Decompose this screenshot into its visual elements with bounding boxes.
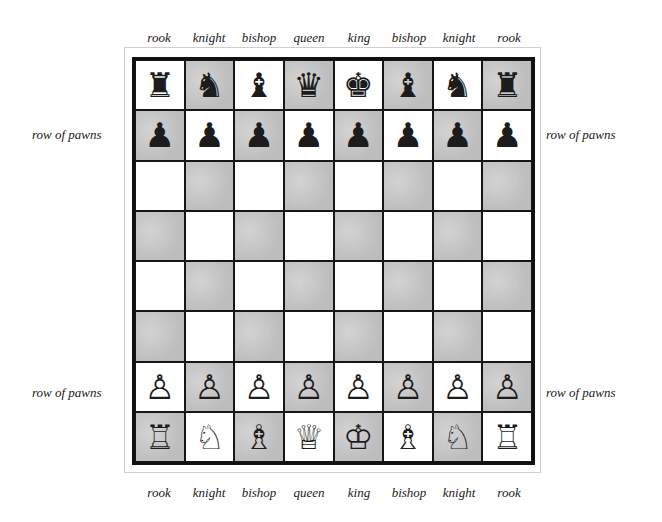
square-r3-c4 bbox=[334, 211, 384, 261]
label-white-pawn-row-right: row of pawns bbox=[546, 385, 616, 401]
bottom-label-3: queen bbox=[284, 485, 334, 501]
top-label-5: bishop bbox=[384, 30, 434, 46]
white-rook-icon: ♖ bbox=[145, 420, 175, 454]
label-black-pawn-row-right: row of pawns bbox=[546, 127, 616, 143]
square-r2-c3 bbox=[284, 161, 334, 211]
square-r5-c5 bbox=[383, 311, 433, 361]
label-white-pawn-row-left: row of pawns bbox=[32, 385, 102, 401]
square-r0-c5: ♝ bbox=[383, 60, 433, 110]
square-r0-c0: ♜ bbox=[135, 60, 185, 110]
square-r3-c2 bbox=[234, 211, 284, 261]
square-r1-c1: ♟ bbox=[185, 110, 235, 160]
black-queen-icon: ♛ bbox=[293, 68, 323, 102]
square-r4-c0 bbox=[135, 261, 185, 311]
square-r7-c1: ♘ bbox=[185, 412, 235, 462]
square-r0-c6: ♞ bbox=[433, 60, 483, 110]
square-r2-c4 bbox=[334, 161, 384, 211]
square-r0-c3: ♛ bbox=[284, 60, 334, 110]
square-r6-c7: ♙ bbox=[482, 362, 532, 412]
white-pawn-icon: ♙ bbox=[145, 370, 175, 404]
square-r1-c4: ♟ bbox=[334, 110, 384, 160]
square-r5-c3 bbox=[284, 311, 334, 361]
white-pawn-icon: ♙ bbox=[194, 370, 224, 404]
white-pawn-icon: ♙ bbox=[244, 370, 274, 404]
square-r2-c7 bbox=[482, 161, 532, 211]
black-pawn-icon: ♟ bbox=[145, 118, 175, 152]
square-r3-c3 bbox=[284, 211, 334, 261]
square-r6-c4: ♙ bbox=[334, 362, 384, 412]
black-knight-icon: ♞ bbox=[194, 68, 224, 102]
square-r6-c3: ♙ bbox=[284, 362, 334, 412]
square-r2-c1 bbox=[185, 161, 235, 211]
square-r4-c4 bbox=[334, 261, 384, 311]
square-r7-c2: ♗ bbox=[234, 412, 284, 462]
bottom-label-4: king bbox=[334, 485, 384, 501]
bottom-label-1: knight bbox=[184, 485, 234, 501]
square-r6-c5: ♙ bbox=[383, 362, 433, 412]
square-r1-c5: ♟ bbox=[383, 110, 433, 160]
square-r1-c3: ♟ bbox=[284, 110, 334, 160]
square-r6-c0: ♙ bbox=[135, 362, 185, 412]
square-r3-c6 bbox=[433, 211, 483, 261]
square-r3-c0 bbox=[135, 211, 185, 261]
square-r6-c1: ♙ bbox=[185, 362, 235, 412]
square-r6-c6: ♙ bbox=[433, 362, 483, 412]
square-r0-c4: ♚ bbox=[334, 60, 384, 110]
square-r1-c2: ♟ bbox=[234, 110, 284, 160]
white-pawn-icon: ♙ bbox=[442, 370, 472, 404]
square-r1-c6: ♟ bbox=[433, 110, 483, 160]
square-r4-c3 bbox=[284, 261, 334, 311]
black-pawn-icon: ♟ bbox=[442, 118, 472, 152]
white-pawn-icon: ♙ bbox=[343, 370, 373, 404]
square-r3-c7 bbox=[482, 211, 532, 261]
square-r0-c7: ♜ bbox=[482, 60, 532, 110]
square-r4-c1 bbox=[185, 261, 235, 311]
black-bishop-icon: ♝ bbox=[244, 68, 274, 102]
square-r5-c1 bbox=[185, 311, 235, 361]
square-r5-c6 bbox=[433, 311, 483, 361]
square-r4-c5 bbox=[383, 261, 433, 311]
black-pawn-icon: ♟ bbox=[492, 118, 522, 152]
white-pawn-icon: ♙ bbox=[293, 370, 323, 404]
black-king-icon: ♚ bbox=[343, 68, 373, 102]
white-pawn-icon: ♙ bbox=[393, 370, 423, 404]
top-label-7: rook bbox=[484, 30, 534, 46]
black-pawn-icon: ♟ bbox=[393, 118, 423, 152]
black-pawn-icon: ♟ bbox=[343, 118, 373, 152]
bottom-label-6: knight bbox=[434, 485, 484, 501]
square-r4-c7 bbox=[482, 261, 532, 311]
square-r7-c3: ♕ bbox=[284, 412, 334, 462]
bottom-label-0: rook bbox=[134, 485, 184, 501]
white-king-icon: ♔ bbox=[343, 420, 373, 454]
square-r7-c0: ♖ bbox=[135, 412, 185, 462]
chess-board: ♜♞♝♛♚♝♞♜♟♟♟♟♟♟♟♟♙♙♙♙♙♙♙♙♖♘♗♕♔♗♘♖ bbox=[132, 57, 535, 465]
square-r5-c2 bbox=[234, 311, 284, 361]
square-r5-c4 bbox=[334, 311, 384, 361]
top-label-1: knight bbox=[184, 30, 234, 46]
black-knight-icon: ♞ bbox=[442, 68, 472, 102]
white-bishop-icon: ♗ bbox=[244, 420, 274, 454]
white-rook-icon: ♖ bbox=[492, 420, 522, 454]
square-r6-c2: ♙ bbox=[234, 362, 284, 412]
square-r2-c2 bbox=[234, 161, 284, 211]
black-bishop-icon: ♝ bbox=[393, 68, 423, 102]
white-knight-icon: ♘ bbox=[442, 420, 472, 454]
top-label-2: bishop bbox=[234, 30, 284, 46]
black-pawn-icon: ♟ bbox=[293, 118, 323, 152]
square-r1-c7: ♟ bbox=[482, 110, 532, 160]
black-rook-icon: ♜ bbox=[145, 68, 175, 102]
square-r3-c5 bbox=[383, 211, 433, 261]
white-queen-icon: ♕ bbox=[293, 420, 323, 454]
white-bishop-icon: ♗ bbox=[393, 420, 423, 454]
black-pawn-icon: ♟ bbox=[244, 118, 274, 152]
bottom-label-5: bishop bbox=[384, 485, 434, 501]
square-r2-c0 bbox=[135, 161, 185, 211]
square-r4-c6 bbox=[433, 261, 483, 311]
top-label-6: knight bbox=[434, 30, 484, 46]
square-r1-c0: ♟ bbox=[135, 110, 185, 160]
square-r4-c2 bbox=[234, 261, 284, 311]
square-r3-c1 bbox=[185, 211, 235, 261]
black-rook-icon: ♜ bbox=[492, 68, 522, 102]
bottom-label-2: bishop bbox=[234, 485, 284, 501]
square-r2-c5 bbox=[383, 161, 433, 211]
